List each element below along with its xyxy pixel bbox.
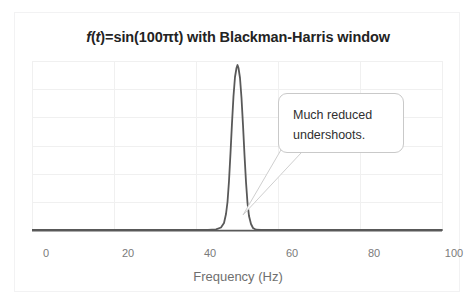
callout-text: Much reduced undershoots. (293, 105, 397, 145)
callout-box: Much reduced undershoots. (278, 93, 404, 153)
callout-line-2: undershoots. (293, 125, 397, 145)
xtick-label-20: 20 (122, 247, 134, 259)
chart-card: f(t)=sin(100πt) with Blackman-Harris win… (14, 12, 460, 292)
chart-title: f(t)=sin(100πt) with Blackman-Harris win… (15, 29, 461, 45)
callout-pointer (221, 141, 301, 221)
xtick-label-60: 60 (286, 247, 298, 259)
title-rest: )=sin(100πt) with Blackman-Harris window (100, 29, 390, 45)
xtick-label-0: 0 (43, 247, 49, 259)
screenshot-root: f(t)=sin(100πt) with Blackman-Harris win… (0, 0, 473, 306)
callout-line-1: Much reduced (293, 105, 397, 125)
xtick-label-80: 80 (368, 247, 380, 259)
xtick-label-40: 40 (204, 247, 216, 259)
xtick-label-100: 100 (445, 247, 463, 259)
x-axis-title: Frequency (Hz) (15, 269, 461, 284)
